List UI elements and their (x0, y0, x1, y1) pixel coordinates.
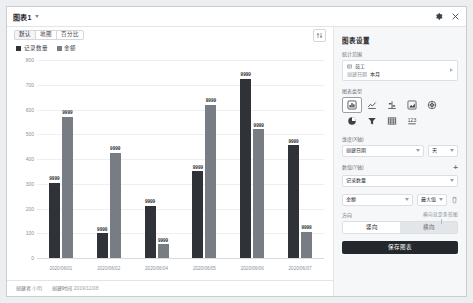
direction-hint-text: 横向就是条形图 (423, 212, 458, 217)
plus-icon[interactable]: + (453, 164, 458, 172)
scope-card[interactable]: 员工 创建日期 本月 (342, 60, 458, 81)
bar-group: 99999999 (133, 60, 181, 258)
creator-value: 小明 (32, 285, 42, 291)
direction-option-vertical[interactable]: 竖向 (343, 222, 400, 234)
direction-section-head: 方向 横向就是条形图 (342, 213, 458, 218)
bar[interactable]: 9999 (205, 105, 216, 258)
chevron-down-icon[interactable] (35, 15, 39, 18)
measure-row-records: 记录数量 (342, 175, 458, 187)
y-axis-tick: 100 (26, 231, 34, 236)
bar-value-label: 9999 (110, 147, 120, 152)
measure-field-value-amount: 金额 (346, 197, 402, 202)
bar-value-label: 9999 (241, 73, 251, 78)
chart-type-section-label: 图表类型 (342, 89, 458, 94)
line-chart-icon[interactable] (362, 97, 382, 113)
bar[interactable]: 9999 (158, 244, 169, 258)
trash-icon[interactable] (451, 196, 458, 204)
y-axis-tick: 300 (26, 181, 34, 186)
dimension-unit-value: 天 (432, 148, 447, 153)
measure-field-select-amount[interactable]: 金额 (342, 194, 413, 206)
tab-default[interactable]: 默认 (14, 30, 36, 41)
bar[interactable]: 9999 (97, 233, 108, 258)
gear-icon[interactable] (434, 12, 443, 21)
creator-meta: 创建者 小明 (16, 286, 42, 291)
scope-filter-line: 创建日期 本月 (347, 72, 446, 77)
bar[interactable]: 9999 (145, 206, 156, 258)
bar[interactable]: 9999 (240, 79, 251, 258)
bar-group: 99999999 (276, 60, 324, 258)
chart-type-grid: 123 (342, 97, 458, 129)
bar-groups: 9999999999999999999999999999999999999999… (37, 60, 324, 258)
bar-chart-icon[interactable] (342, 97, 362, 113)
bar[interactable]: 9999 (110, 153, 121, 258)
bar[interactable]: 9999 (253, 129, 264, 258)
direction-section-label: 方向 (342, 213, 352, 218)
pie-chart-icon[interactable] (342, 113, 362, 129)
scope-filter-key: 创建日期 (347, 72, 367, 77)
creator-key: 创建者 (16, 285, 31, 291)
created-value: 2019/11/08 (74, 285, 99, 291)
bar-value-label: 9999 (301, 226, 311, 231)
bar[interactable]: 9999 (301, 232, 312, 258)
radar-chart-icon[interactable] (422, 97, 442, 113)
scope-filter-value: 本月 (370, 72, 380, 77)
number-chart-icon[interactable]: 123 (402, 113, 422, 129)
bar-value-label: 9999 (158, 239, 168, 244)
measure-section-label: 数值(Y轴) (342, 165, 364, 170)
chevron-right-icon[interactable] (450, 68, 453, 72)
bar-value-label: 9999 (62, 111, 72, 116)
funnel-chart-icon[interactable] (362, 113, 382, 129)
bar-group: 99999999 (37, 60, 85, 258)
chevron-down-icon (450, 179, 454, 182)
tab-percent[interactable]: 百分比 (56, 30, 84, 41)
chart-legend: 记录数量 金额 (7, 43, 333, 54)
x-axis-label: 2020/06/01 (37, 267, 85, 272)
created-key: 创建时间 (52, 285, 72, 291)
bar[interactable]: 9999 (192, 171, 203, 258)
column-chart-icon[interactable] (382, 97, 402, 113)
bar-value-label: 9999 (97, 228, 107, 233)
bar[interactable]: 9999 (62, 117, 73, 258)
dimension-row: 创建日期 天 (342, 145, 458, 157)
chart-preview-pane: 默认 地图 百分比 记录数量 金额 010020030040 (7, 27, 334, 296)
legend-item-amount[interactable]: 金额 (57, 46, 77, 52)
close-icon[interactable] (451, 12, 460, 21)
legend-label-amount: 金额 (64, 46, 76, 52)
chevron-down-icon (416, 149, 420, 152)
bar-value-label: 9999 (206, 99, 216, 104)
svg-text:123: 123 (408, 117, 417, 123)
legend-item-records[interactable]: 记录数量 (16, 46, 48, 52)
bar-value-label: 9999 (288, 140, 298, 145)
x-axis-label: 2020/06/05 (180, 267, 228, 272)
direction-hint: 横向就是条形图 (423, 213, 458, 218)
sort-button[interactable] (313, 29, 326, 42)
bar[interactable]: 9999 (288, 145, 299, 258)
gridline: 0 (37, 258, 324, 259)
bar[interactable]: 9999 (49, 183, 60, 258)
hint-arrow-icon (441, 219, 442, 224)
legend-swatch-amount (57, 46, 62, 51)
direction-option-horizontal[interactable]: 横向 (400, 222, 457, 234)
dimension-field-select[interactable]: 创建日期 (342, 145, 424, 157)
bar-value-label: 9999 (193, 166, 203, 171)
x-axis-label: 2020/06/04 (133, 267, 181, 272)
table-chart-icon[interactable] (382, 113, 402, 129)
chart-settings-panel: 图表设置 统计范围 员工 创建日期 本月 图表类 (334, 27, 466, 296)
y-axis-tick: 600 (26, 107, 34, 112)
measure-agg-select-amount[interactable]: 最大值 (417, 194, 447, 206)
dimension-field-value: 创建日期 (346, 148, 413, 153)
tab-map[interactable]: 地图 (35, 30, 57, 41)
bar-value-label: 9999 (254, 124, 264, 129)
y-axis-tick: 0 (31, 256, 34, 261)
titlebar-actions (434, 12, 460, 21)
chart-editor-modal: 图表1 默认 地图 百分比 (6, 6, 467, 297)
measure-field-select-records[interactable]: 记录数量 (342, 175, 458, 187)
save-chart-button[interactable]: 保存图表 (342, 241, 458, 254)
x-axis-label: 2020/06/07 (276, 267, 324, 272)
dimension-unit-select[interactable]: 天 (428, 145, 458, 157)
chart-title[interactable]: 图表1 (13, 12, 32, 22)
chart-tabs: 默认 地图 百分比 (7, 27, 333, 43)
area-chart-icon[interactable] (402, 97, 422, 113)
scope-section-label: 统计范围 (342, 52, 458, 57)
y-axis-tick: 200 (26, 206, 34, 211)
